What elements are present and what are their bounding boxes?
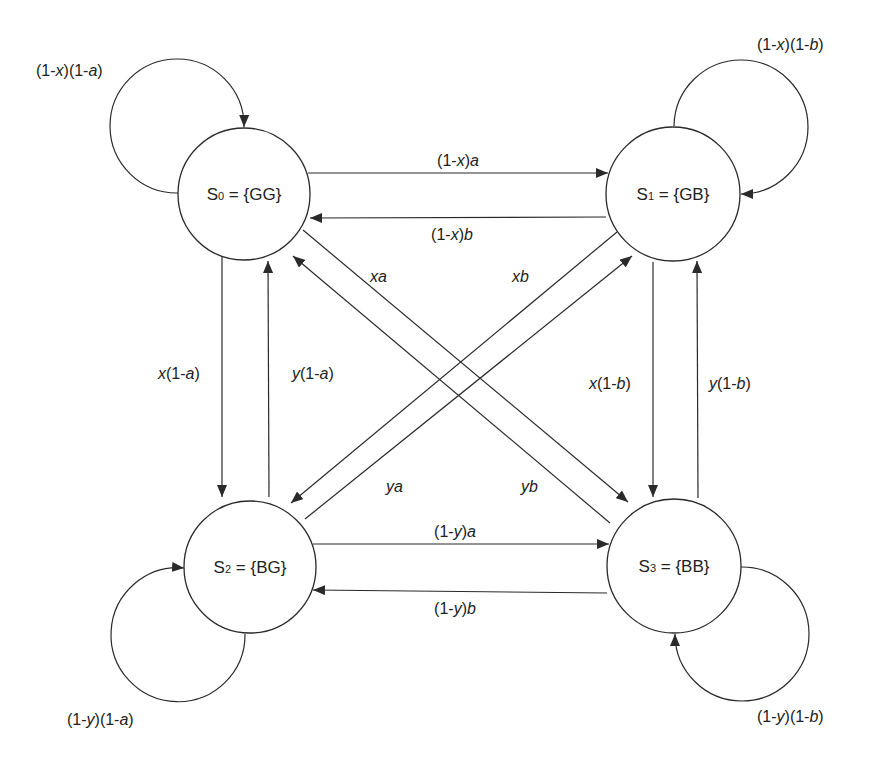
node-s1: S1 = {GB} — [606, 127, 740, 261]
label-s1-s1: (1-x)(1-b) — [757, 36, 824, 53]
label-s3-s0: yb — [520, 478, 538, 495]
node-s0: S0 = {GG} — [178, 128, 310, 260]
label-s3-s2: (1-y)b — [434, 600, 476, 617]
edge-s2-s0 — [268, 261, 269, 497]
edge-s3-s0 — [293, 256, 610, 523]
label-s2-s1: ya — [385, 478, 403, 495]
svg-text:S2 = {BG}: S2 = {BG} — [214, 558, 287, 577]
label-s0-s0: (1-x)(1-a) — [36, 62, 103, 79]
label-s0-s3: xa — [369, 268, 387, 285]
edge-s1-s0 — [310, 217, 606, 218]
label-s1-s3: x(1-b) — [588, 375, 631, 392]
label-s0-s2: x(1-a) — [157, 365, 200, 382]
label-s1-s2: xb — [511, 268, 529, 285]
edge-s0-s3 — [303, 230, 628, 502]
label-s2-s3: (1-y)a — [434, 523, 476, 540]
state-transition-diagram: S0 = {GG} S1 = {GB} S2 = {BG} S3 = {BB} … — [0, 0, 882, 763]
label-s0-s1: (1-x)a — [437, 152, 479, 169]
node-s2: S2 = {BG} — [184, 501, 316, 633]
label-s2-s2: (1-y)(1-a) — [67, 711, 134, 728]
label-s3-s1: y(1-b) — [708, 375, 751, 392]
label-s1-s0: (1-x)b — [431, 226, 473, 243]
node-s3: S3 = {BB} — [607, 499, 741, 633]
edge-s2-s1 — [305, 256, 632, 519]
svg-text:S0 = {GG}: S0 = {GG} — [207, 185, 282, 204]
edge-s1-s2 — [291, 232, 617, 503]
label-s2-s0: y(1-a) — [291, 365, 334, 382]
label-s3-s3: (1-y)(1-b) — [757, 708, 824, 725]
edge-s3-s1 — [697, 261, 698, 498]
svg-text:S3 = {BB}: S3 = {BB} — [639, 557, 710, 576]
edge-s3-s2 — [313, 590, 607, 593]
svg-text:S1 = {GB}: S1 = {GB} — [637, 185, 710, 204]
